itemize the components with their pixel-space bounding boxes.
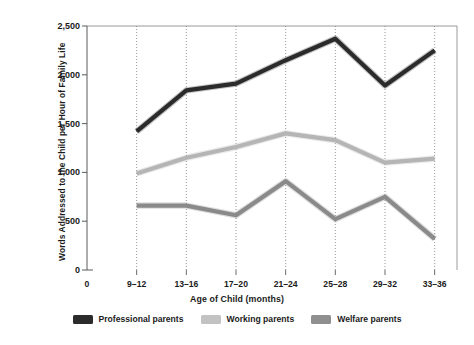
line-chart: Words Addressed to the Child per Hour of… (0, 0, 474, 345)
x-tick-label: 33–36 (423, 279, 447, 289)
series-line-halo-1 (137, 39, 435, 132)
legend-swatch (73, 315, 93, 324)
legend-item: Professional parents (73, 314, 184, 324)
plot-frame (87, 26, 457, 270)
chart-legend: Professional parentsWorking parentsWelfa… (0, 314, 474, 324)
y-tick-label: 500 (36, 216, 80, 226)
y-tick-label: 2,500 (36, 21, 80, 31)
y-tick-label: 2,000 (36, 70, 80, 80)
legend-label: Professional parents (99, 314, 184, 324)
legend-label: Working parents (227, 314, 295, 324)
x-tick-label: 0 (85, 279, 90, 289)
x-tick-label: 9–12 (127, 279, 146, 289)
y-tick-label: 1,500 (36, 119, 80, 129)
legend-item: Welfare parents (311, 314, 401, 324)
x-tick-label: 25–28 (323, 279, 347, 289)
legend-swatch (311, 315, 331, 324)
x-tick-label: 17–20 (224, 279, 248, 289)
y-tick-label: 0 (36, 265, 80, 275)
legend-item: Working parents (201, 314, 295, 324)
x-axis-title: Age of Child (months) (0, 294, 474, 304)
legend-swatch (201, 315, 221, 324)
x-tick-label: 21–24 (274, 279, 298, 289)
x-tick-label: 13–16 (174, 279, 198, 289)
y-tick-label: 1,000 (36, 167, 80, 177)
legend-label: Welfare parents (337, 314, 401, 324)
x-tick-label: 29–32 (373, 279, 397, 289)
